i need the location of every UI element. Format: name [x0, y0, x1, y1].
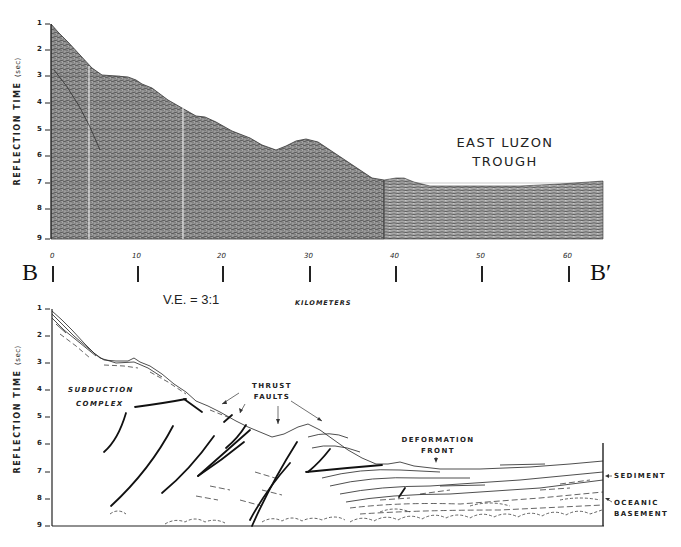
x-axis-label: KILOMETERS	[295, 299, 351, 307]
east-luzon-trough-label: EAST LUZON TROUGH	[440, 133, 570, 171]
x-tick-bar	[137, 266, 139, 282]
y-tick: 8	[37, 494, 42, 502]
y-tick: 3	[37, 358, 42, 366]
y-tick: 4	[37, 385, 42, 393]
x-tick-bar	[222, 266, 224, 282]
deformation-front-label: DEFORMATION FRONT	[398, 435, 478, 457]
x-tick-label: 60	[563, 252, 572, 260]
y-axis-label-bottom: REFLECTION TIME (sec)	[13, 364, 22, 474]
x-tick-label: 50	[476, 252, 485, 260]
y-tick: 1	[37, 304, 42, 312]
x-tick-bar	[568, 266, 570, 282]
x-tick-label: 20	[217, 252, 226, 260]
sediment-label: SEDIMENT	[614, 471, 666, 482]
y-tick: 9	[37, 521, 42, 529]
seismic-image	[0, 0, 681, 260]
x-tick-bar	[395, 266, 397, 282]
vertical-exaggeration: V.E. = 3:1	[163, 292, 219, 307]
x-tick-label: 0	[50, 252, 54, 260]
oceanic-basement-label: OCEANIC BASEMENT	[614, 498, 668, 520]
x-tick-bar	[481, 266, 483, 282]
section-start-label: B	[22, 259, 38, 286]
y-tick: 6	[37, 439, 42, 447]
y-tick: 7	[37, 467, 42, 475]
x-tick-bar	[309, 266, 311, 282]
y-tick: 2	[37, 331, 42, 339]
x-tick-label: 40	[390, 252, 399, 260]
x-tick-label: 30	[304, 252, 313, 260]
subduction-complex-label: SUBDUCTION COMPLEX	[68, 385, 134, 410]
y-tick: 5	[37, 412, 42, 420]
thrust-faults-label: THRUST FAULTS	[240, 381, 304, 403]
section-end-label: B′	[590, 259, 611, 286]
x-tick-label: 10	[132, 252, 141, 260]
x-tick-bar	[52, 266, 54, 282]
